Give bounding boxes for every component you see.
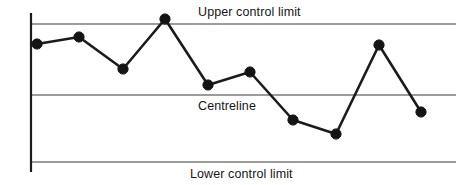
- data-point: [160, 14, 170, 24]
- chart-background: [0, 0, 476, 185]
- data-point: [416, 107, 426, 117]
- data-point: [74, 32, 84, 42]
- data-point: [374, 40, 384, 50]
- data-point: [331, 129, 341, 139]
- upper-control-limit-label: Upper control limit: [198, 6, 301, 19]
- data-point: [32, 39, 42, 49]
- data-point: [203, 80, 213, 90]
- control-chart: Upper control limit Centreline Lower con…: [0, 0, 476, 185]
- data-point: [118, 64, 128, 74]
- data-point: [288, 115, 298, 125]
- lower-control-limit-label: Lower control limit: [190, 168, 293, 181]
- data-point: [245, 67, 255, 77]
- centreline-label: Centreline: [198, 100, 256, 113]
- control-chart-plot: [0, 0, 476, 185]
